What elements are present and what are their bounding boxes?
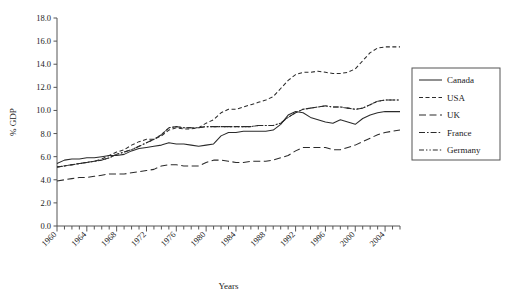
chart-container: 0.02.04.06.08.010.012.014.016.018.0% GDP… (0, 0, 508, 298)
y-tick-label: 0.0 (40, 221, 51, 231)
series-line-germany (57, 100, 400, 167)
x-tick-label: 1968 (99, 229, 118, 248)
x-axis-title: Years (218, 281, 239, 291)
y-axis-ticks: 0.02.04.06.08.010.012.014.016.018.0 (36, 13, 57, 231)
y-tick-label: 8.0 (40, 129, 51, 139)
x-tick-label: 1996 (308, 229, 327, 248)
series-line-france (57, 100, 400, 167)
x-tick-label: 1960 (39, 229, 58, 248)
x-tick-label: 1980 (188, 229, 207, 248)
series-group (57, 47, 400, 181)
line-chart: 0.02.04.06.08.010.012.014.016.018.0% GDP… (0, 0, 508, 298)
legend-label-usa: USA (447, 93, 466, 103)
legend-label-uk: UK (447, 110, 460, 120)
y-tick-label: 2.0 (40, 198, 51, 208)
legend-label-canada: Canada (447, 75, 474, 85)
y-tick-label: 18.0 (36, 13, 51, 23)
x-tick-label: 1964 (69, 229, 89, 249)
y-axis-title: % GDP (8, 108, 18, 136)
y-tick-label: 16.0 (36, 36, 51, 46)
x-axis-ticks: 1960196419681972197619801984198819921996… (39, 226, 400, 248)
x-tick-label: 1988 (248, 229, 267, 248)
y-tick-label: 12.0 (36, 82, 51, 92)
legend: CanadaUSAUKFranceGermany (412, 68, 500, 160)
x-tick-label: 1972 (129, 229, 148, 248)
x-tick-label: 1984 (218, 229, 238, 249)
legend-label-france: France (447, 128, 472, 138)
series-line-usa (57, 47, 400, 167)
x-tick-label: 1992 (278, 229, 297, 248)
x-tick-label: 2000 (338, 229, 357, 248)
y-tick-label: 4.0 (40, 175, 51, 185)
y-tick-label: 10.0 (36, 105, 51, 115)
legend-label-germany: Germany (447, 145, 481, 155)
y-tick-label: 14.0 (36, 59, 51, 69)
x-tick-label: 1976 (159, 229, 178, 248)
x-tick-label: 2004 (367, 229, 387, 249)
y-tick-label: 6.0 (40, 152, 51, 162)
